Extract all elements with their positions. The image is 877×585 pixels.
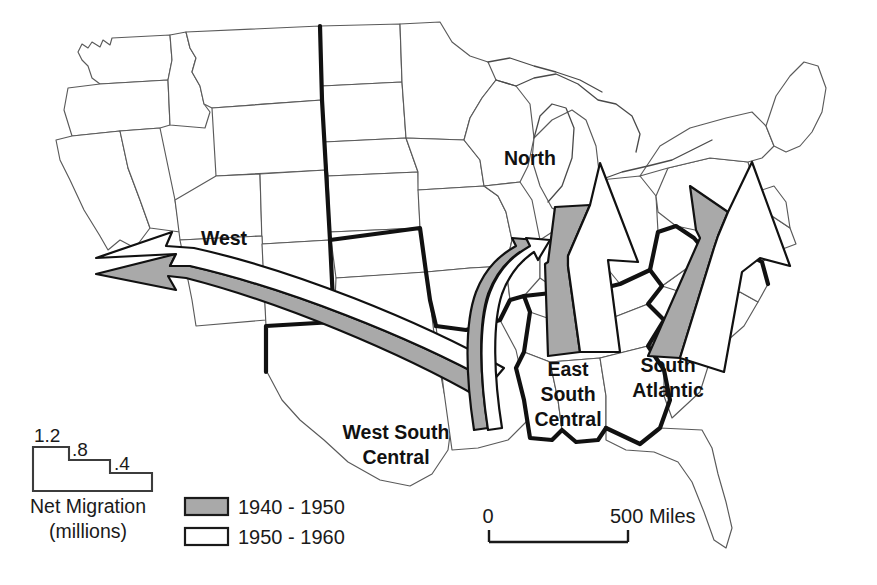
legend-caption-line1: Net Migration (30, 495, 146, 517)
state-kansas (328, 172, 420, 232)
legend-period-label-1940-1950: 1940 - 1950 (238, 496, 345, 518)
state-washington (78, 35, 172, 84)
state-montana (186, 26, 322, 108)
region-label-east-south-central-line1: East (547, 358, 589, 380)
scale-bar-start-label: 0 (482, 505, 493, 527)
legend-swatch-1940-1950 (185, 498, 228, 515)
legend-step-label-0-8: .8 (72, 439, 88, 460)
region-label-west-south-central-line1: West South (343, 421, 450, 443)
migration-flow-map-figure: West North West South Central East South… (0, 0, 877, 585)
legend-swatch-1950-1960 (185, 528, 228, 545)
map-canvas: West North West South Central East South… (0, 0, 877, 585)
region-label-west: West (201, 227, 248, 249)
scale-bar-end-label: 500 Miles (610, 505, 696, 527)
state-wyoming (212, 100, 326, 176)
region-label-east-south-central-line2: South (540, 383, 595, 405)
legend-step-label-1-2: 1.2 (34, 425, 60, 446)
state-south-dakota (322, 82, 406, 142)
region-label-north: North (504, 147, 556, 169)
region-label-south-atlantic-line1: South (640, 354, 695, 376)
region-label-east-south-central-line3: Central (534, 408, 601, 430)
state-oregon (64, 80, 170, 136)
legend-period-label-1950-1960: 1950 - 1960 (238, 526, 345, 548)
state-north-dakota (320, 24, 402, 86)
legend-step-label-0-4: .4 (114, 453, 130, 474)
legend-caption-line2: (millions) (49, 520, 127, 542)
region-label-west-south-central-line2: Central (362, 446, 429, 468)
state-nebraska (324, 138, 418, 176)
region-label-south-atlantic-line2: Atlantic (632, 379, 704, 401)
state-colorado (260, 170, 330, 244)
